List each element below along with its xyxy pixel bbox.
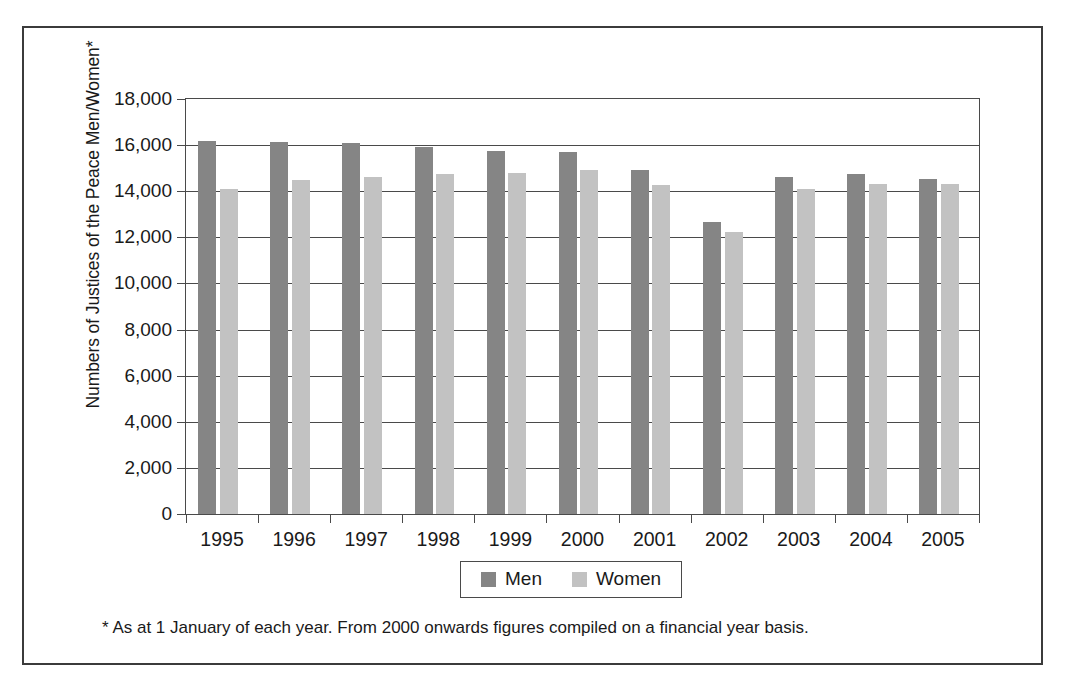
bar-men-1998 — [415, 147, 433, 514]
bar-group: 1995 — [186, 99, 258, 514]
bar-men-2004 — [847, 174, 865, 514]
chart-footnote: * As at 1 January of each year. From 200… — [102, 616, 902, 641]
bar-women-2000 — [580, 170, 598, 514]
y-tick-mark — [177, 237, 186, 238]
y-tick-mark — [177, 376, 186, 377]
y-tick-label: 14,000 — [52, 180, 172, 202]
y-tick-label: 4,000 — [52, 411, 172, 433]
bar-men-2000 — [559, 152, 577, 514]
y-tick-label: 8,000 — [52, 319, 172, 341]
bar-group: 2004 — [835, 99, 907, 514]
bar-men-2002 — [703, 222, 721, 514]
bar-group: 2005 — [907, 99, 979, 514]
bar-women-2004 — [869, 184, 887, 514]
legend-entry-women: Women — [572, 568, 661, 590]
y-tick-label: 18,000 — [52, 88, 172, 110]
x-tick-mark — [474, 514, 475, 523]
y-tick-mark — [177, 145, 186, 146]
bar-group: 1999 — [474, 99, 546, 514]
bar-men-2005 — [919, 179, 937, 514]
bar-group: 2000 — [546, 99, 618, 514]
y-tick-mark — [177, 283, 186, 284]
bar-men-1997 — [342, 143, 360, 514]
y-tick-mark — [177, 191, 186, 192]
legend-entry-men: Men — [481, 568, 542, 590]
bar-men-2003 — [775, 177, 793, 514]
bar-group: 1997 — [330, 99, 402, 514]
x-tick-mark — [258, 514, 259, 523]
y-tick-mark — [177, 422, 186, 423]
x-tick-mark — [907, 514, 908, 523]
bar-group: 1998 — [402, 99, 474, 514]
x-tick-label: 1995 — [186, 528, 258, 551]
bar-women-1998 — [436, 174, 454, 514]
legend-label: Men — [505, 568, 542, 590]
bar-women-2005 — [941, 184, 959, 514]
x-tick-mark — [619, 514, 620, 523]
x-tick-mark — [835, 514, 836, 523]
bar-women-1997 — [364, 177, 382, 514]
plot-area: 02,0004,0006,0008,00010,00012,00014,0001… — [185, 98, 980, 515]
y-tick-mark — [177, 330, 186, 331]
x-tick-mark — [330, 514, 331, 523]
bar-women-1995 — [220, 189, 238, 514]
x-tick-mark — [763, 514, 764, 523]
bar-group: 2002 — [691, 99, 763, 514]
x-tick-label: 2005 — [907, 528, 979, 551]
chart-legend: MenWomen — [460, 561, 682, 598]
y-tick-label: 10,000 — [52, 272, 172, 294]
y-tick-label: 6,000 — [52, 365, 172, 387]
y-tick-label: 2,000 — [52, 457, 172, 479]
bar-women-2003 — [797, 189, 815, 514]
bar-men-1996 — [270, 142, 288, 514]
bar-group: 1996 — [258, 99, 330, 514]
x-tick-mark — [691, 514, 692, 523]
y-tick-label: 16,000 — [52, 134, 172, 156]
legend-swatch-icon — [572, 572, 587, 587]
x-tick-label: 1998 — [402, 528, 474, 551]
x-tick-mark — [402, 514, 403, 523]
x-tick-label: 2004 — [835, 528, 907, 551]
x-tick-mark — [186, 514, 187, 523]
y-tick-mark — [177, 514, 186, 515]
x-tick-label: 2003 — [763, 528, 835, 551]
chart-frame: Numbers of Justices of the Peace Men/Wom… — [22, 26, 1043, 665]
legend-swatch-icon — [481, 572, 496, 587]
bar-men-1999 — [487, 151, 505, 514]
x-tick-label: 1997 — [330, 528, 402, 551]
bar-women-2001 — [652, 185, 670, 514]
bar-women-2002 — [725, 232, 743, 514]
y-tick-label: 0 — [52, 503, 172, 525]
x-tick-label: 1999 — [474, 528, 546, 551]
bar-men-2001 — [631, 170, 649, 514]
bar-group: 2003 — [763, 99, 835, 514]
legend-label: Women — [596, 568, 661, 590]
x-tick-label: 2002 — [691, 528, 763, 551]
x-tick-label: 2001 — [619, 528, 691, 551]
bar-women-1999 — [508, 173, 526, 514]
bar-women-1996 — [292, 180, 310, 514]
y-tick-label: 12,000 — [52, 226, 172, 248]
bar-men-1995 — [198, 141, 216, 515]
x-tick-label: 1996 — [258, 528, 330, 551]
y-tick-mark — [177, 468, 186, 469]
x-tick-mark — [546, 514, 547, 523]
x-tick-label: 2000 — [546, 528, 618, 551]
y-tick-mark — [177, 99, 186, 100]
bar-group: 2001 — [619, 99, 691, 514]
x-tick-mark — [979, 514, 980, 523]
